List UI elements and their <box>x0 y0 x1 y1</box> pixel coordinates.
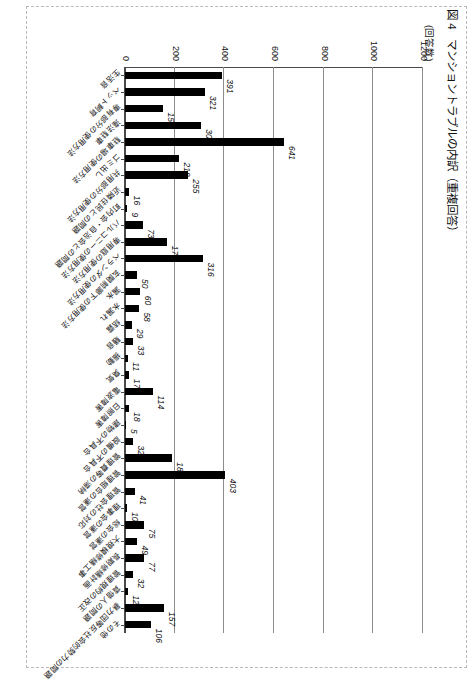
y-axis-tick-label: 1000 <box>369 27 379 61</box>
bar <box>125 404 129 411</box>
bar <box>125 221 143 228</box>
bar <box>125 554 144 561</box>
bar-value-label: 60 <box>142 295 152 304</box>
category-label: 振動 <box>104 350 121 367</box>
y-axis-tick-label: 800 <box>319 27 329 61</box>
gridline <box>223 67 224 633</box>
gridline <box>273 67 274 633</box>
bar <box>125 287 140 294</box>
bar-value-label: 11 <box>130 362 140 371</box>
bar <box>125 371 129 378</box>
bar-value-label: 32 <box>135 578 145 587</box>
bar <box>125 271 137 278</box>
bar <box>125 570 133 577</box>
bar <box>125 304 139 311</box>
bar <box>125 254 203 261</box>
bar <box>125 537 137 544</box>
bar <box>125 620 151 627</box>
bar-value-label: 77 <box>147 562 157 571</box>
bar-value-label: 403 <box>228 478 238 492</box>
bar-value-label: 33 <box>136 345 146 354</box>
bar <box>125 337 133 344</box>
bar-value-label: 316 <box>206 262 216 276</box>
y-axis-tick-label: 600 <box>270 27 280 61</box>
figure-title: 図 4マンショントラブルの内訳（重複回答） <box>445 9 461 237</box>
bar-value-label: 17 <box>132 378 142 387</box>
y-axis-tick-label: 200 <box>170 27 180 61</box>
bar <box>125 71 222 78</box>
bar <box>125 521 144 528</box>
figure-number: 図 4 <box>446 9 458 30</box>
bar <box>125 188 129 195</box>
y-axis-tick-label: 1200 <box>419 27 429 61</box>
bar-value-label: 255 <box>191 179 201 193</box>
bar-value-label: 73 <box>146 229 156 238</box>
bar-value-label: 16 <box>131 195 141 204</box>
bar-value-label: 12 <box>130 595 140 604</box>
bar <box>125 121 201 128</box>
bar-value-label: 50 <box>140 279 150 288</box>
bar-value-label: 157 <box>166 612 176 626</box>
bar <box>125 487 135 494</box>
bar-value-label: 32 <box>135 445 145 454</box>
plot-area: 0200400600800100012003913211543056412182… <box>125 67 423 633</box>
gridline <box>422 67 423 633</box>
category-label: 臭気 <box>104 367 121 384</box>
bar <box>125 437 133 444</box>
gridline <box>372 67 373 633</box>
gridline <box>322 67 323 633</box>
bar-value-label: 9 <box>130 212 140 217</box>
bar <box>125 321 132 328</box>
gridline <box>124 67 125 633</box>
bar-value-label: 5 <box>129 428 139 433</box>
bar <box>125 471 225 478</box>
bar-value-label: 114 <box>156 395 166 409</box>
bar <box>125 238 167 245</box>
bar-value-label: 75 <box>146 528 156 537</box>
bar-value-label: 18 <box>132 412 142 421</box>
bar <box>125 171 188 178</box>
bar-value-label: 10 <box>130 512 140 521</box>
bar-value-label: 321 <box>207 95 217 109</box>
bar-value-label: 391 <box>225 79 235 93</box>
bar-value-label: 29 <box>135 329 145 338</box>
category-label: 騒音 <box>104 334 121 351</box>
bar <box>125 604 164 611</box>
bar <box>125 154 179 161</box>
category-label-group: 生活音ペット飼育専有部分の使用方法違法駐車駐車場の使用方法ゴミ出し共用部分の使用… <box>11 67 123 633</box>
bar <box>125 387 153 394</box>
bar <box>125 88 205 95</box>
figure-title-text: マンショントラブルの内訳（重複回答） <box>446 38 458 236</box>
bar-value-label: 106 <box>154 628 164 642</box>
bar-value-label: 58 <box>142 312 152 321</box>
figure-container: 図 4マンショントラブルの内訳（重複回答） (回答数) 020040060080… <box>11 9 463 669</box>
bar-value-label: 41 <box>138 495 148 504</box>
y-axis-tick-label: 400 <box>220 27 230 61</box>
bar <box>125 138 284 145</box>
y-axis-tick-label: 0 <box>121 27 131 61</box>
gridline <box>173 67 174 633</box>
bar <box>125 104 163 111</box>
bar-value-label: 641 <box>287 145 297 159</box>
bar-value-label: 49 <box>140 545 150 554</box>
bar <box>125 454 172 461</box>
